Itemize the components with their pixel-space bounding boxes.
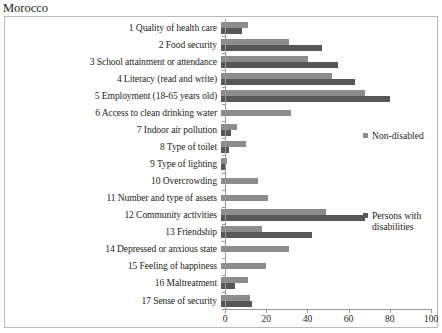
bar-group <box>221 104 439 121</box>
category-label: 2 Food security <box>5 40 221 50</box>
category-label: 11 Number and type of assets <box>5 193 221 203</box>
legend-label: Persons with disabilities <box>372 210 441 232</box>
legend-item-persons-with-disabilities[interactable]: Persons with disabilities <box>363 210 441 232</box>
bar-group <box>221 87 439 104</box>
category-row: 6 Access to clean drinking water <box>5 104 439 121</box>
category-tick <box>222 190 226 191</box>
category-row: 9 Type of lighting <box>5 156 439 173</box>
category-row: 1 Quality of health care <box>5 19 439 36</box>
category-label: 3 School attainment or attendance <box>5 57 221 67</box>
category-label: 5 Employment (18-65 years old) <box>5 91 221 101</box>
bar-disabled <box>221 283 235 289</box>
category-label: 10 Overcrowding <box>5 176 221 186</box>
category-tick <box>222 292 226 293</box>
x-axis-tick-label: 60 <box>344 314 354 325</box>
bar-group <box>221 173 439 190</box>
category-row: 15 Feeling of happiness <box>5 258 439 275</box>
bar-group <box>221 258 439 275</box>
chart-container: Morocco 1 Quality of health care2 Food s… <box>0 0 442 333</box>
x-axis-tick-label: 80 <box>385 314 395 325</box>
legend-swatch-icon <box>363 133 368 138</box>
x-axis-tick <box>349 309 350 313</box>
category-tick <box>222 36 226 37</box>
category-label: 1 Quality of health care <box>5 23 221 33</box>
bar-disabled <box>221 130 231 136</box>
x-axis-tick <box>431 309 432 313</box>
bar-non-disabled <box>221 263 266 269</box>
category-tick <box>222 121 226 122</box>
category-row: 5 Employment (18-65 years old) <box>5 87 439 104</box>
bar-disabled <box>221 215 365 221</box>
category-tick <box>222 87 226 88</box>
x-axis-tick-label: 100 <box>424 314 438 325</box>
bar-disabled <box>221 45 322 51</box>
category-label: 7 Indoor air pollution <box>5 125 221 135</box>
bar-group <box>221 190 439 207</box>
category-tick <box>222 224 226 225</box>
category-tick <box>222 207 226 208</box>
category-label: 6 Access to clean drinking water <box>5 108 221 118</box>
bar-group <box>221 275 439 292</box>
category-label: 9 Type of lighting <box>5 159 221 169</box>
x-axis-tick <box>225 309 226 313</box>
category-tick <box>222 53 226 54</box>
category-row: 14 Depressed or anxious state <box>5 241 439 258</box>
bar-non-disabled <box>221 110 291 116</box>
bar-group <box>221 19 439 36</box>
bar-group <box>221 292 439 309</box>
category-row: 4 Literacy (read and write) <box>5 70 439 87</box>
bar-disabled <box>221 232 312 238</box>
category-tick <box>222 258 226 259</box>
category-rows: 1 Quality of health care2 Food security3… <box>5 19 439 309</box>
category-row: 11 Number and type of assets <box>5 190 439 207</box>
category-tick <box>222 241 226 242</box>
category-tick <box>222 138 226 139</box>
bar-disabled <box>221 62 338 68</box>
category-label: 12 Community activities <box>5 210 221 220</box>
chart-title: Morocco <box>3 1 48 15</box>
bar-group <box>221 53 439 70</box>
category-row: 10 Overcrowding <box>5 173 439 190</box>
value-axis-line <box>225 19 226 309</box>
category-label: 8 Type of toilet <box>5 142 221 152</box>
category-label: 4 Literacy (read and write) <box>5 74 221 84</box>
x-axis-tick <box>307 309 308 313</box>
category-row: 3 School attainment or attendance <box>5 53 439 70</box>
bar-disabled <box>221 96 390 102</box>
category-tick <box>222 173 226 174</box>
bar-non-disabled <box>221 195 268 201</box>
x-axis-tick-label: 20 <box>261 314 271 325</box>
legend-item-non-disabled[interactable]: Non-disabled <box>363 130 424 141</box>
plot-area: 1 Quality of health care2 Food security3… <box>4 16 438 328</box>
bar-non-disabled <box>221 246 289 252</box>
bar-group <box>221 156 439 173</box>
category-row: 17 Sense of security <box>5 292 439 309</box>
bar-disabled <box>221 79 355 85</box>
bar-group <box>221 70 439 87</box>
bar-group <box>221 36 439 53</box>
category-label: 14 Depressed or anxious state <box>5 244 221 254</box>
category-tick <box>222 70 226 71</box>
category-row: 2 Food security <box>5 36 439 53</box>
category-label: 17 Sense of security <box>5 296 221 306</box>
category-label: 15 Feeling of happiness <box>5 261 221 271</box>
x-axis-tick <box>390 309 391 313</box>
legend-label: Non-disabled <box>372 130 424 141</box>
bar-non-disabled <box>221 178 258 184</box>
category-tick <box>222 275 226 276</box>
category-label: 13 Friendship <box>5 227 221 237</box>
category-tick <box>222 155 226 156</box>
legend-swatch-icon <box>363 213 368 218</box>
category-row: 16 Maltreatment <box>5 275 439 292</box>
x-axis-tick <box>266 309 267 313</box>
category-label: 16 Maltreatment <box>5 278 221 288</box>
category-tick <box>222 104 226 105</box>
x-axis-line <box>225 309 431 310</box>
x-axis-tick-label: 0 <box>223 314 228 325</box>
x-axis-tick-label: 40 <box>303 314 313 325</box>
bar-group <box>221 241 439 258</box>
